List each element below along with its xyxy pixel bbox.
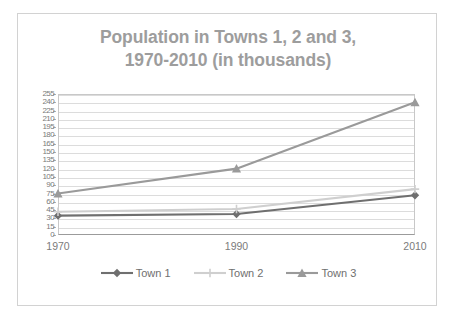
- legend-label: Town 3: [321, 267, 356, 279]
- chart-container: Population in Towns 1, 2 and 3, 1970-201…: [17, 13, 437, 306]
- plot-wrapper: 0153045607590105120135150165180195210225…: [18, 14, 438, 307]
- y-tick-label: 0: [50, 231, 54, 239]
- y-tick-label: 75: [46, 190, 54, 198]
- series-line: [58, 102, 415, 193]
- y-tick-label: 240: [42, 98, 54, 106]
- plus-marker: [232, 205, 240, 213]
- y-tick-label: 30: [46, 214, 54, 222]
- x-tick-label: 1970: [46, 240, 69, 252]
- legend-swatch-plus: [193, 267, 227, 279]
- legend-swatch-diamond: [100, 267, 134, 279]
- y-tick-label: 210: [42, 115, 54, 123]
- diamond-marker: [113, 269, 121, 277]
- y-axis: 0153045607590105120135150165180195210225…: [20, 88, 56, 243]
- y-tick-label: 195: [42, 123, 54, 131]
- y-tick-label: 15: [46, 223, 54, 231]
- y-tick-label: 135: [42, 156, 54, 164]
- legend-label: Town 1: [136, 267, 171, 279]
- triangle-marker: [410, 98, 419, 107]
- y-tick-label: 105: [42, 173, 54, 181]
- y-tick-label: 45: [46, 206, 54, 214]
- y-tick-label: 180: [42, 131, 54, 139]
- x-axis: 197019902010: [58, 240, 415, 256]
- chart-legend: Town 1Town 2Town 3: [18, 267, 438, 279]
- plus-marker: [411, 185, 419, 193]
- y-tick-label: 255: [42, 90, 54, 98]
- y-tick-label: 60: [46, 198, 54, 206]
- series-town-3: [53, 98, 419, 198]
- plus-marker: [205, 269, 213, 277]
- legend-item-town-1[interactable]: Town 1: [100, 267, 171, 279]
- legend-swatch-triangle: [285, 267, 319, 279]
- legend-item-town-2[interactable]: Town 2: [193, 267, 264, 279]
- x-tick-label: 2010: [403, 240, 426, 252]
- y-tick-label: 225: [42, 107, 54, 115]
- legend-item-town-3[interactable]: Town 3: [285, 267, 356, 279]
- series-layer: [58, 94, 415, 235]
- y-tick-label: 150: [42, 148, 54, 156]
- y-tick-label: 165: [42, 140, 54, 148]
- legend-label: Town 2: [229, 267, 264, 279]
- y-tick-label: 90: [46, 181, 54, 189]
- x-tick-label: 1990: [225, 240, 248, 252]
- y-tick-label: 120: [42, 165, 54, 173]
